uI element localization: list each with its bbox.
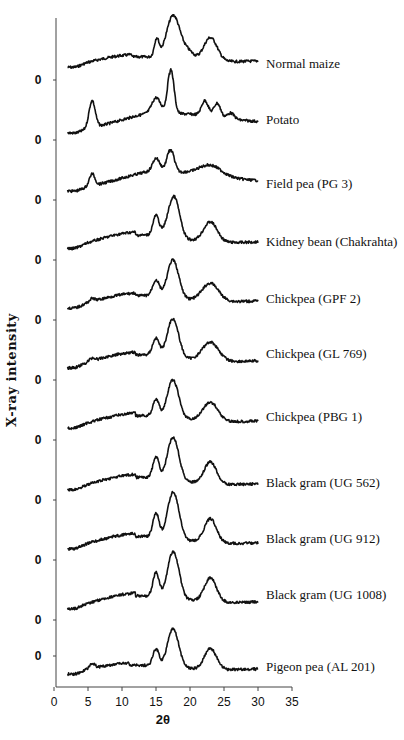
series-label: Black gram (UG 912) [266,531,380,546]
series-label: Potato [266,112,299,127]
x-tick-label: 35 [285,695,299,709]
y-axis-title: X-ray intensity [4,313,19,427]
x-tick-label: 25 [217,695,231,709]
trace-potato [68,69,258,134]
y-tick-label: 0 [35,649,42,663]
series-label: Black gram (UG 1008) [266,587,386,602]
trace-black-gram-ug-912 [68,492,258,550]
series-label: Chickpea (PBG 1) [266,409,362,424]
y-tick-label: 0 [35,133,42,147]
trace-pigeon-pea-al-201 [68,628,258,675]
y-tick-label: 0 [35,553,42,567]
trace-field-pea-pg-3 [68,150,258,193]
trace-black-gram-ug-562 [68,437,258,491]
xrd-stacked-chart: 00000000000 05101520253035 2θ X-ray inte… [0,0,404,740]
series-labels: Normal maizePotatoField pea (PG 3)Kidney… [266,56,397,674]
series-label: Field pea (PG 3) [266,176,352,191]
y-tick-label: 0 [35,493,42,507]
y-tick-label: 0 [35,373,42,387]
x-tick-label: 0 [51,695,58,709]
trace-normal-maize [68,15,258,69]
y-tick-label: 0 [35,433,42,447]
y-tick-label: 0 [35,73,42,87]
y-tick-label: 0 [35,313,42,327]
y-tick-labels: 00000000000 [35,73,56,663]
trace-chickpea-gl-769 [68,319,258,370]
trace-black-gram-ug-1008 [68,551,258,610]
axes [56,18,292,687]
y-tick-label: 0 [35,253,42,267]
trace-kidney-bean-chakrahta [68,195,258,249]
series-label: Normal maize [266,56,340,71]
trace-chickpea-pbg-1 [68,379,258,429]
x-tick-label: 10 [115,695,129,709]
series-label: Kidney bean (Chakrahta) [266,234,397,249]
y-tick-label: 0 [35,193,42,207]
series-label: Black gram (UG 562) [266,475,380,490]
x-axis-title: 2θ [156,712,170,727]
series-label: Chickpea (GL 769) [266,346,367,361]
series-label: Pigeon pea (AL 201) [266,659,375,674]
x-tick-labels: 05101520253035 [51,687,299,709]
x-tick-label: 5 [85,695,92,709]
series-label: Chickpea (GPF 2) [266,291,361,306]
y-tick-label: 0 [35,613,42,627]
x-tick-label: 20 [183,695,197,709]
trace-chickpea-gpf-2 [68,259,258,309]
diffractogram-traces [68,15,258,676]
x-tick-label: 15 [149,695,163,709]
x-tick-label: 30 [251,695,265,709]
